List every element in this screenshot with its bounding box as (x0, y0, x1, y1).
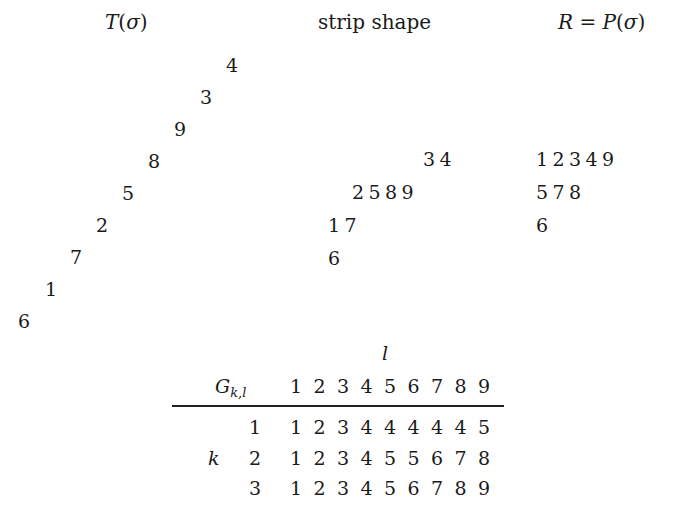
strip-cell: 5 (369, 183, 386, 202)
table-row: 123456789 (290, 479, 502, 498)
strip-shape-title: strip shape (318, 12, 431, 32)
table-cell: 2 (314, 449, 338, 468)
table-cell: 5 (478, 418, 502, 437)
t-func: T (105, 10, 118, 34)
tableau-cell: 3 (569, 150, 586, 169)
diag-entry: 3 (200, 88, 212, 107)
equals-sign: = (573, 10, 602, 34)
p-func: P (603, 10, 616, 34)
diag-entry: 6 (18, 312, 30, 331)
column-variable-l: l (382, 344, 388, 363)
row-index: 3 (249, 479, 261, 498)
table-cell: 4 (361, 418, 385, 437)
diag-entry: 8 (148, 152, 160, 171)
column-header: 9 (478, 377, 502, 396)
table-cell: 4 (431, 418, 455, 437)
table-cell: 6 (408, 479, 432, 498)
table-cell: 3 (337, 449, 361, 468)
tableau-row-2: 578 (536, 183, 586, 202)
tableau-cell: 1 (536, 150, 553, 169)
row-index: 2 (249, 449, 261, 468)
strip-cell: 8 (385, 183, 402, 202)
tableau-row-1: 12349 (536, 150, 619, 169)
table-cell: 5 (384, 449, 408, 468)
column-header: 3 (337, 377, 361, 396)
strip-row-2: 2589 (352, 183, 418, 202)
strip-row-1: 34 (423, 150, 456, 169)
diag-entry: 5 (122, 184, 134, 203)
table-row: 123444445 (290, 418, 502, 437)
table-cell: 4 (384, 418, 408, 437)
tableau-cell: 5 (536, 183, 553, 202)
table-cell: 3 (337, 418, 361, 437)
diag-entry: 2 (96, 216, 108, 235)
tableau-cell: 9 (602, 150, 619, 169)
sigma: σ (624, 10, 638, 34)
strip-row-3: 17 (328, 216, 361, 235)
row-variable-k: k (208, 449, 220, 468)
table-cell: 1 (290, 479, 314, 498)
diag-entry: 1 (45, 280, 57, 299)
strip-cell: 9 (402, 183, 419, 202)
column-header: 5 (384, 377, 408, 396)
table-cell: 4 (361, 449, 385, 468)
tableau-cell: 6 (536, 216, 553, 235)
g-symbol: G (215, 375, 230, 397)
sigma: σ (126, 10, 140, 34)
column-headers: 123456789 (290, 377, 502, 396)
diag-entry: 4 (226, 56, 238, 75)
table-row: 123455678 (290, 449, 502, 468)
table-cell: 8 (478, 449, 502, 468)
table-cell: 2 (314, 418, 338, 437)
tableau-cell: 7 (553, 183, 570, 202)
column-header: 7 (431, 377, 455, 396)
g-subscript: k,l (230, 385, 246, 400)
column-header: 4 (361, 377, 385, 396)
tableau-cell: 2 (553, 150, 570, 169)
diag-entry: 9 (174, 120, 186, 139)
tableau-cell: 8 (569, 183, 586, 202)
table-cell: 1 (290, 418, 314, 437)
r-equals-p-sigma-title: R = P(σ) (558, 12, 645, 32)
table-cell: 2 (314, 479, 338, 498)
table-cell: 7 (431, 479, 455, 498)
strip-cell: 4 (440, 150, 457, 169)
tableau-row-3: 6 (536, 216, 553, 235)
corner-label: Gk,l (215, 377, 246, 399)
strip-row-4: 6 (328, 249, 345, 268)
strip-cell: 1 (328, 216, 345, 235)
column-header: 1 (290, 377, 314, 396)
table-cell: 8 (455, 479, 479, 498)
column-header: 8 (455, 377, 479, 396)
table-cell: 3 (337, 479, 361, 498)
column-header: 2 (314, 377, 338, 396)
column-header: 6 (408, 377, 432, 396)
table-cell: 4 (455, 418, 479, 437)
r-symbol: R (558, 10, 573, 34)
row-index: 1 (249, 418, 261, 437)
tableau-cell: 4 (586, 150, 603, 169)
table-cell: 5 (408, 449, 432, 468)
table-cell: 7 (455, 449, 479, 468)
strip-cell: 7 (345, 216, 362, 235)
strip-cell: 3 (423, 150, 440, 169)
strip-cell: 2 (352, 183, 369, 202)
table-cell: 4 (361, 479, 385, 498)
table-cell: 9 (478, 479, 502, 498)
table-cell: 5 (384, 479, 408, 498)
table-cell: 4 (408, 418, 432, 437)
table-cell: 6 (431, 449, 455, 468)
strip-cell: 6 (328, 249, 345, 268)
header-rule (172, 405, 504, 407)
table-cell: 1 (290, 449, 314, 468)
diag-entry: 7 (70, 248, 82, 267)
t-sigma-title: T(σ) (105, 12, 148, 32)
